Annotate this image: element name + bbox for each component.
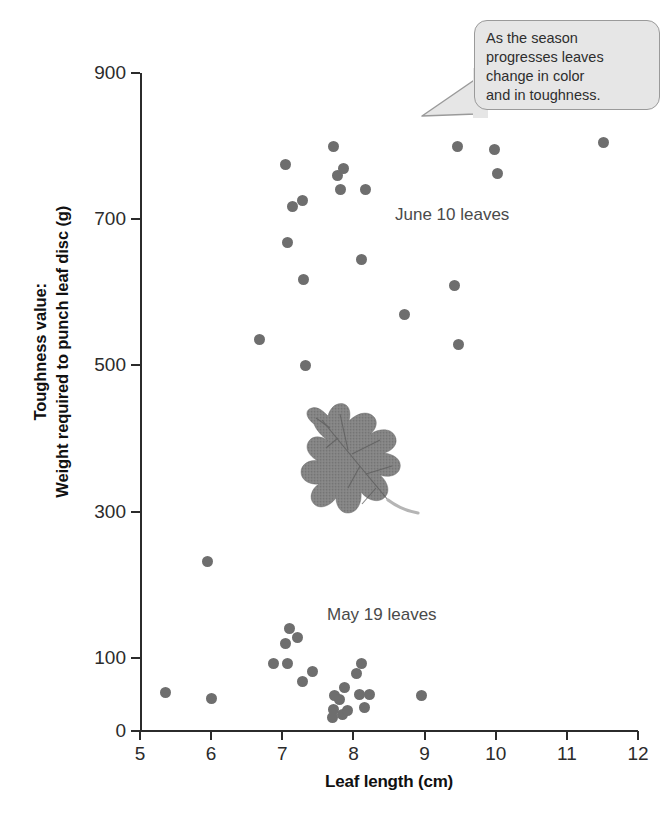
data-point-may-2	[202, 556, 213, 567]
data-point-june-4	[297, 195, 308, 206]
data-point-june-12	[360, 184, 371, 195]
x-tick-label-6: 6	[191, 744, 231, 763]
y-tick-700	[131, 218, 140, 220]
x-tick-5	[139, 731, 141, 740]
data-point-june-7	[328, 141, 339, 152]
data-point-may-5	[282, 658, 293, 669]
data-point-may-21	[364, 689, 375, 700]
y-axis-line	[140, 73, 142, 732]
data-point-june-11	[356, 254, 367, 265]
y-tick-label-500: 500	[80, 355, 126, 374]
data-point-june-6	[300, 360, 311, 371]
data-point-june-17	[489, 144, 500, 155]
y-tick-label-300: 300	[80, 502, 126, 521]
data-point-may-20	[359, 702, 370, 713]
x-tick-12	[637, 731, 639, 740]
x-axis-line	[140, 730, 638, 732]
callout-line-2: progresses leaves	[486, 48, 659, 67]
x-tick-8	[352, 731, 354, 740]
series-label-may: May 19 leaves	[327, 605, 437, 625]
data-point-june-10	[338, 163, 349, 174]
callout-line-1: As the season	[486, 29, 659, 48]
data-point-june-0	[254, 334, 265, 345]
callout-line-3: change in color	[486, 67, 659, 86]
y-tick-500	[131, 364, 140, 366]
bottom-caption	[8, 800, 308, 816]
data-point-may-3	[268, 658, 279, 669]
data-point-june-5	[298, 274, 309, 285]
data-point-may-22	[416, 690, 427, 701]
data-point-may-18	[354, 689, 365, 700]
y-tick-label-900: 900	[80, 63, 126, 82]
data-point-june-15	[452, 141, 463, 152]
data-point-june-14	[449, 280, 460, 291]
callout-line-4: and in toughness.	[486, 86, 659, 105]
data-point-june-13	[399, 309, 410, 320]
data-point-may-8	[297, 676, 308, 687]
y-tick-label-700: 700	[80, 209, 126, 228]
y-axis-title-line1: Toughness value:	[30, 132, 52, 572]
data-point-may-16	[342, 705, 353, 716]
data-point-may-4	[280, 638, 291, 649]
x-tick-11	[566, 731, 568, 740]
x-tick-10	[495, 731, 497, 740]
data-point-may-7	[292, 632, 303, 643]
scatter-plot-figure: Toughness value: Weight required to punc…	[0, 0, 667, 816]
x-axis-title: Leaf length (cm)	[140, 772, 638, 792]
y-tick-300	[131, 511, 140, 513]
season-callout-bubble: As the season progresses leaves change i…	[474, 20, 660, 110]
x-tick-label-12: 12	[618, 744, 658, 763]
data-point-june-2	[282, 237, 293, 248]
data-point-june-16	[453, 339, 464, 350]
data-point-may-13	[334, 694, 345, 705]
x-tick-9	[424, 731, 426, 740]
x-tick-7	[281, 731, 283, 740]
data-point-june-19	[598, 137, 609, 148]
data-point-may-19	[356, 658, 367, 669]
data-point-june-18	[492, 168, 503, 179]
y-tick-label-100: 100	[80, 648, 126, 667]
data-point-june-1	[280, 159, 291, 170]
y-axis-title-line2: Weight required to punch leaf disc (g)	[52, 132, 74, 572]
y-tick-900	[131, 72, 140, 74]
x-tick-label-9: 9	[405, 744, 445, 763]
y-tick-label-0: 0	[80, 721, 126, 740]
y-tick-100	[131, 657, 140, 659]
x-tick-label-10: 10	[476, 744, 516, 763]
oak-leaf-illustration	[296, 396, 468, 556]
data-point-may-17	[351, 668, 362, 679]
x-tick-label-7: 7	[262, 744, 302, 763]
data-point-june-9	[335, 184, 346, 195]
y-axis-title: Toughness value: Weight required to punc…	[30, 132, 74, 572]
x-tick-label-8: 8	[333, 744, 373, 763]
leaf-body	[301, 404, 418, 513]
x-tick-label-11: 11	[547, 744, 587, 763]
x-tick-6	[210, 731, 212, 740]
x-tick-label-5: 5	[120, 744, 160, 763]
data-point-may-1	[206, 693, 217, 704]
data-point-may-15	[339, 682, 350, 693]
data-point-may-9	[307, 666, 318, 677]
leaf-stem	[388, 500, 418, 513]
series-label-june: June 10 leaves	[395, 205, 509, 225]
data-point-may-0	[160, 687, 171, 698]
